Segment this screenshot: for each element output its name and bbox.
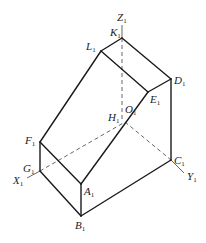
label-f1: F1 [24, 134, 36, 148]
label-o1: O1 [125, 103, 137, 117]
label-z1: Z1 [117, 11, 127, 25]
label-c1: C1 [174, 154, 185, 168]
label-x1: X1 [12, 174, 24, 188]
edge-l1-f1 [40, 51, 101, 142]
prism-diagram: Z1 K1 L1 D1 E1 O1 H1 F1 G1 X1 C1 Y1 A1 B… [0, 0, 206, 243]
edge-b1-c1 [81, 160, 171, 216]
edge-d1-e1 [148, 79, 171, 92]
edge-k1-d1 [122, 38, 171, 79]
label-e1: E1 [149, 93, 161, 107]
label-l1: L1 [85, 40, 96, 54]
edge-l1-e1 [101, 51, 148, 92]
label-y1: Y1 [187, 170, 197, 184]
label-g1: G1 [23, 162, 35, 176]
edge-e1-a1 [81, 92, 148, 184]
label-d1: D1 [173, 74, 186, 88]
hidden-edge-h1-c1 [125, 122, 171, 160]
label-b1: B1 [75, 219, 86, 233]
label-a1: A1 [83, 185, 95, 199]
hidden-edge-g1-h1 [40, 122, 125, 171]
label-h1: H1 [107, 111, 120, 125]
label-k1: K1 [109, 26, 121, 40]
